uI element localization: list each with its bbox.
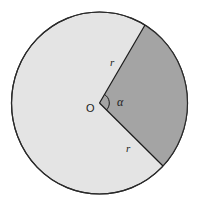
center-label: O	[86, 102, 95, 114]
radius-label-top: r	[110, 56, 115, 68]
circle-sector-diagram: O α r r	[0, 0, 197, 206]
radius-label-bottom: r	[126, 142, 131, 154]
angle-label: α	[117, 95, 124, 109]
